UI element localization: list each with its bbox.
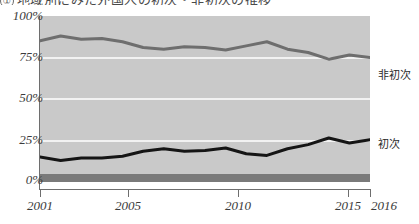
title-marker-icon: ① xyxy=(0,0,14,5)
plot-area xyxy=(40,16,370,182)
x-tick-2005 xyxy=(128,190,129,197)
x-tick-2016 xyxy=(370,190,371,197)
line-series-first xyxy=(40,138,370,160)
y-tick-label-100: 100% xyxy=(13,8,43,24)
y-tick-label-75: 75% xyxy=(19,49,43,65)
x-tick-label-2001: 2001 xyxy=(16,198,64,214)
x-tick-label-2016: 2016 xyxy=(371,198,419,214)
x-tick-label-2015: 2015 xyxy=(324,198,372,214)
title-text: 地域別にみた外国人の初次・非初次の推移 xyxy=(17,0,272,5)
legend-label-first: 初次 xyxy=(378,135,400,151)
y-tick-label-0: 0% xyxy=(26,172,43,188)
chart-title: ①地域別にみた外国人の初次・非初次の推移 xyxy=(0,0,419,5)
x-tick-2015 xyxy=(348,190,349,197)
legend-label-nonfirst: 非初次 xyxy=(378,66,411,82)
x-axis-line xyxy=(39,189,371,190)
y-tick-label-50: 50% xyxy=(19,90,43,106)
chart-figure: ①地域別にみた外国人の初次・非初次の推移 100% 75% 50% 25% 0%… xyxy=(0,0,419,224)
x-tick-label-2010: 2010 xyxy=(214,198,262,214)
series-plot xyxy=(40,16,370,182)
x-tick-2001 xyxy=(40,190,41,197)
x-tick-label-2005: 2005 xyxy=(104,198,152,214)
line-series-nonfirst xyxy=(40,36,370,59)
x-tick-2010 xyxy=(238,190,239,197)
y-tick-label-25: 25% xyxy=(19,132,43,148)
